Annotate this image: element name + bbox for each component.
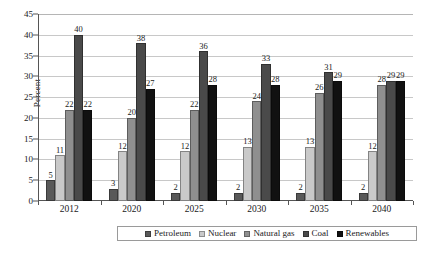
bar-value-label: 28: [204, 75, 222, 84]
legend-item[interactable]: Coal: [303, 229, 329, 238]
bar: [377, 85, 386, 201]
legend-swatch-icon: [337, 231, 343, 237]
bar: [127, 118, 136, 201]
legend-swatch-icon: [244, 231, 250, 237]
y-tick-label: 40: [9, 30, 33, 39]
x-tick-mark: [413, 201, 414, 205]
legend-swatch-icon: [199, 231, 205, 237]
legend-swatch-icon: [303, 231, 309, 237]
y-tick-label: 35: [9, 51, 33, 60]
bar-value-label: 27: [141, 79, 159, 88]
bars-layer: 5112240223122038272122236282132433282132…: [38, 14, 413, 201]
x-tick-label: 2020: [101, 205, 164, 215]
x-tick-label: 2030: [226, 205, 289, 215]
y-tick-label: 0: [9, 197, 33, 206]
bar: [368, 151, 377, 201]
bar-value-label: 29: [391, 71, 409, 80]
bar: [208, 85, 217, 201]
bar: [171, 193, 180, 201]
bar: [296, 193, 305, 201]
legend-label: Natural gas: [253, 229, 294, 238]
x-tick-label: 2035: [288, 205, 351, 215]
y-tick-label: 20: [9, 113, 33, 122]
bar-group: 212223628: [163, 14, 226, 201]
bar: [74, 35, 83, 201]
legend-swatch-icon: [145, 231, 151, 237]
bar-chart: Percent 051015202530354045 5112240223122…: [0, 0, 428, 257]
legend-item[interactable]: Renewables: [337, 229, 389, 238]
bar: [271, 85, 280, 201]
legend-item[interactable]: Natural gas: [244, 229, 294, 238]
bar: [55, 155, 64, 201]
y-tick-label: 30: [9, 72, 33, 81]
legend-item[interactable]: Nuclear: [199, 229, 236, 238]
bar-group: 213263129: [288, 14, 351, 201]
y-tick-label: 15: [9, 134, 33, 143]
chart-legend: PetroleumNuclearNatural gasCoalRenewable…: [117, 226, 417, 241]
bar-value-label: 38: [132, 34, 150, 43]
x-tick-label: 2040: [351, 205, 414, 215]
y-tick-label: 5: [9, 176, 33, 185]
bar-value-label: 40: [70, 25, 88, 34]
bar: [333, 81, 342, 202]
bar-value-label: 33: [257, 54, 275, 63]
bar: [199, 51, 208, 201]
bar: [396, 81, 405, 202]
bar: [243, 147, 252, 201]
legend-item[interactable]: Petroleum: [145, 229, 191, 238]
bar: [324, 72, 333, 201]
y-tick-label: 10: [9, 155, 33, 164]
bar: [234, 193, 243, 201]
bar-value-label: 36: [195, 42, 213, 51]
bar-value-label: 28: [266, 75, 284, 84]
bar: [252, 101, 261, 201]
bar: [261, 64, 270, 201]
bar: [315, 93, 324, 201]
bar-group: 312203827: [101, 14, 164, 201]
y-tick-label: 25: [9, 93, 33, 102]
bar-value-label: 29: [329, 71, 347, 80]
bar: [118, 151, 127, 201]
legend-label: Nuclear: [208, 229, 236, 238]
bar-group: 511224022: [38, 14, 101, 201]
bar-value-label: 22: [79, 100, 97, 109]
bar: [359, 193, 368, 201]
bar: [136, 43, 145, 201]
bar: [46, 180, 55, 201]
x-tick-label: 2012: [38, 205, 101, 215]
bar: [65, 110, 74, 201]
bar: [386, 81, 395, 202]
bar: [180, 151, 189, 201]
x-tick-label: 2025: [163, 205, 226, 215]
legend-label: Petroleum: [154, 229, 191, 238]
legend-label: Renewables: [346, 229, 389, 238]
bar-group: 212282929: [351, 14, 414, 201]
y-tick-label: 45: [9, 10, 33, 19]
bar: [83, 110, 92, 201]
bar: [190, 110, 199, 201]
bar: [146, 89, 155, 201]
bar: [109, 189, 118, 201]
bar: [305, 147, 314, 201]
legend-label: Coal: [312, 229, 329, 238]
bar-group: 213243328: [226, 14, 289, 201]
